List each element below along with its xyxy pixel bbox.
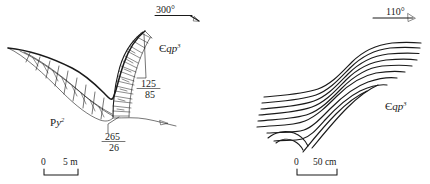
scale-zero-right: 0 bbox=[294, 157, 299, 167]
left-panel: 125 85 265 26 Py2 Єqp3 0 5 m bbox=[8, 16, 199, 176]
scale-bar-right bbox=[297, 169, 337, 175]
eqp3-left-text: Єqp3 bbox=[159, 42, 181, 54]
figure-canvas: 125 85 265 26 Py2 Єqp3 0 5 m bbox=[0, 0, 430, 184]
scale-value-left: 5 m bbox=[63, 157, 78, 167]
scale-bar-left bbox=[44, 169, 78, 175]
dip-value-1: 85 bbox=[145, 89, 155, 100]
eqp3-right-text: Єqp3 bbox=[385, 100, 407, 112]
fold-traces bbox=[257, 42, 421, 152]
fold-trace-1 bbox=[264, 42, 421, 97]
right-panel: Єqp3 0 50 cm bbox=[257, 14, 421, 175]
unit-label-eqp3-left: Єqp3 bbox=[159, 42, 181, 54]
bearing-label-right: 110° bbox=[386, 6, 405, 17]
strike-value-1: 125 bbox=[141, 78, 156, 89]
lower-contact-with-shear-arrow bbox=[113, 118, 176, 126]
strike-value-2: 265 bbox=[105, 131, 120, 142]
bearing-label-left: 300° bbox=[156, 4, 175, 15]
scale-zero-left: 0 bbox=[41, 157, 46, 167]
py2-text: Py2 bbox=[50, 116, 65, 128]
unit-label-py2: Py2 bbox=[50, 116, 65, 128]
bearing-arrow-300 bbox=[155, 16, 199, 22]
unit-contact-lower-wedge bbox=[8, 48, 113, 121]
crosshatch-wedge-py2 bbox=[20, 51, 113, 119]
scale-value-right: 50 cm bbox=[313, 157, 337, 167]
dip-value-2: 26 bbox=[109, 142, 119, 153]
geological-figure: 125 85 265 26 Py2 Єqp3 0 5 m bbox=[0, 0, 430, 184]
unit-label-eqp3-right: Єqp3 bbox=[385, 100, 407, 112]
